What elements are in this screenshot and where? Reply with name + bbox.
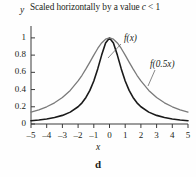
y-tick-label: 0.4 — [4, 84, 26, 94]
axes — [31, 26, 188, 124]
panel-label: d — [0, 158, 196, 170]
curve-fx — [31, 38, 188, 121]
x-axis-label: x — [0, 142, 196, 152]
x-tick-label: 5 — [179, 130, 196, 140]
curve-f05x — [31, 38, 188, 112]
tick-marks — [31, 38, 188, 128]
curve-label-f05x: f(0.5x) — [150, 59, 175, 69]
curve-label-fx: f(x) — [124, 33, 137, 43]
y-tick-label: 0 — [4, 118, 26, 128]
y-tick-label: 1 — [4, 32, 26, 42]
y-tick-label: 0.6 — [4, 66, 26, 76]
data-curves — [31, 38, 188, 121]
y-tick-label: 0.8 — [4, 49, 26, 59]
figure-container: Scaled horizontally by a value c < 1 y 0… — [0, 0, 196, 177]
leader-line-f05x — [148, 70, 155, 86]
y-tick-label: 0.2 — [4, 101, 26, 111]
